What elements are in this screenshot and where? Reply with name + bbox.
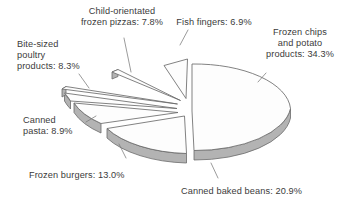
leader-line-bite-sized-poultry <box>79 74 89 88</box>
leader-line-canned-baked-beans <box>211 163 218 178</box>
pie-label-fish-fingers: Fish fingers: 6.9% <box>168 17 260 28</box>
pie-chart-figure: Child-orientated frozen pizzas: 7.8% Fis… <box>0 0 345 207</box>
slice-top-canned-baked-beans <box>107 116 187 154</box>
pie-label-bite-sized-poultry: Bite-sized poultry products: 8.3% <box>17 39 109 73</box>
slice-top-fish-fingers <box>164 59 188 99</box>
pie-label-canned-baked-beans: Canned baked beans: 20.9% <box>181 186 341 197</box>
pie-label-frozen-burgers: Frozen burgers: 13.0% <box>29 170 159 181</box>
pie-slice-tops <box>62 59 291 154</box>
pie-label-canned-pasta: Canned pasta: 8.9% <box>23 115 93 137</box>
pie-label-child-pizzas: Child-orientated frozen pizzas: 7.8% <box>61 6 183 28</box>
pie-label-frozen-chips: Frozen chips and potato products: 34.3% <box>256 27 344 61</box>
leader-line-fish-fingers <box>180 30 188 45</box>
leader-line-child-pizzas <box>124 38 131 72</box>
